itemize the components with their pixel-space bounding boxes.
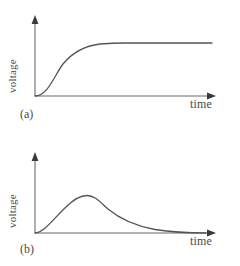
panel-tag-b: (b) <box>20 243 34 255</box>
curve-voltage-pulse <box>35 196 206 234</box>
figure-two-voltage-plots: voltage time (a) voltage time (b) <box>0 0 240 266</box>
x-axis-label-a: time <box>190 98 212 110</box>
y-axis-arrow-icon-a <box>32 15 39 24</box>
y-axis-label-a: voltage <box>7 59 18 93</box>
plot-panel-a: voltage time (a) <box>0 0 240 133</box>
curve-voltage-rise <box>35 43 212 96</box>
y-axis-arrow-icon-b <box>32 152 39 161</box>
panel-tag-a: (a) <box>20 108 33 120</box>
x-axis-label-b: time <box>190 235 212 247</box>
y-axis-label-b: voltage <box>7 194 18 228</box>
plot-panel-b: voltage time (b) <box>0 133 240 266</box>
plot-a-graphic <box>0 0 240 133</box>
